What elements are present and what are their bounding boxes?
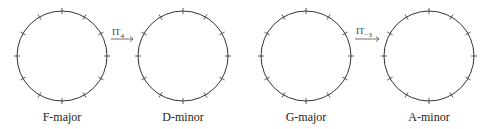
arrow-subscript: −3	[365, 31, 372, 39]
arrow-symbol: IT	[112, 27, 121, 37]
circle-a-minor	[381, 8, 477, 104]
label-f-major: F-major	[43, 110, 82, 125]
arrow-label-1: IT4	[112, 27, 124, 40]
circle-g-major	[258, 8, 354, 104]
label-g-major: G-major	[286, 110, 327, 125]
arrow-label-2: IT−3	[356, 26, 372, 39]
arrow-symbol: IT	[356, 26, 365, 36]
circle-f-major	[14, 8, 110, 104]
label-a-minor: A-minor	[408, 110, 449, 125]
circle-d-minor	[135, 8, 231, 104]
arrow-subscript: 4	[121, 32, 125, 40]
label-d-minor: D-minor	[162, 110, 203, 125]
